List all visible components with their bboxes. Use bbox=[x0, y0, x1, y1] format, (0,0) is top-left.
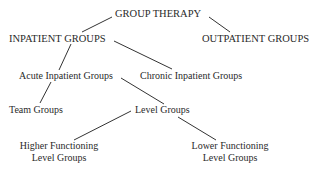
edge-root-inpatient bbox=[82, 17, 112, 32]
node-inpatient-groups: INPATIENT GROUPS bbox=[9, 33, 106, 45]
node-team-groups: Team Groups bbox=[9, 104, 63, 116]
edge-level-higher bbox=[74, 111, 131, 140]
node-level-groups: Level Groups bbox=[135, 104, 190, 116]
higher-line-1: Higher Functioning bbox=[14, 140, 104, 152]
node-outpatient-groups: OUTPATIENT GROUPS bbox=[202, 33, 309, 45]
node-chronic-inpatient-groups: Chronic Inpatient Groups bbox=[140, 70, 242, 82]
edge-level-lower bbox=[178, 117, 216, 140]
higher-line-2: Level Groups bbox=[14, 152, 104, 164]
edge-acute-team bbox=[40, 82, 51, 103]
node-group-therapy: GROUP THERAPY bbox=[115, 8, 201, 20]
node-lower-functioning-level-groups: Lower Functioning Level Groups bbox=[187, 140, 273, 164]
edge-root-outpatient bbox=[209, 17, 230, 32]
node-acute-inpatient-groups: Acute Inpatient Groups bbox=[19, 70, 113, 82]
edge-inpatient-acute bbox=[59, 44, 71, 70]
lower-line-2: Level Groups bbox=[187, 152, 273, 164]
node-higher-functioning-level-groups: Higher Functioning Level Groups bbox=[14, 140, 104, 164]
group-therapy-tree-diagram: GROUP THERAPY INPATIENT GROUPS OUTPATIEN… bbox=[0, 0, 321, 186]
edge-inpatient-chronic bbox=[114, 41, 172, 69]
lower-line-1: Lower Functioning bbox=[187, 140, 273, 152]
